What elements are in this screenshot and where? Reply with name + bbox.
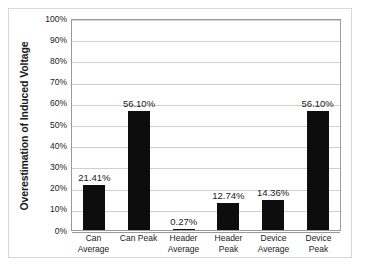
bar — [262, 200, 284, 230]
bar-slot: 56.10% — [117, 20, 162, 230]
bar-slot: 14.36% — [251, 20, 296, 230]
y-axis-tick-label: 40% — [31, 142, 67, 151]
y-axis-tick-label: 0% — [31, 227, 67, 236]
y-axis-tick-label: 100% — [31, 15, 67, 24]
x-axis-category-label: Can Peak — [116, 233, 161, 261]
bar — [128, 111, 150, 230]
bar-value-label: 12.74% — [212, 190, 244, 201]
y-axis-tick-label: 20% — [31, 184, 67, 193]
x-axis-category-label: Device Peak — [296, 233, 341, 261]
bar — [173, 229, 195, 230]
bar-value-label: 56.10% — [302, 98, 334, 109]
bar — [307, 111, 329, 230]
y-axis-tick-label: 60% — [31, 99, 67, 108]
y-axis-tick-label: 30% — [31, 163, 67, 172]
x-axis-category-label: Header Peak — [206, 233, 251, 261]
bar-series: 21.41%56.10%0.27%12.74%14.36%56.10% — [72, 20, 340, 230]
x-axis-category-labels: Can AverageCan PeakHeader AverageHeader … — [71, 233, 341, 261]
bar-value-label: 56.10% — [123, 98, 155, 109]
y-axis-tick-label: 50% — [31, 121, 67, 130]
bar-value-label: 21.41% — [78, 172, 110, 183]
bar-slot: 56.10% — [295, 20, 340, 230]
y-axis-tick-labels: 100%90%80%70%60%50%40%30%20%10%0% — [31, 19, 67, 231]
x-axis-category-label: Device Average — [251, 233, 296, 261]
bar-slot: 21.41% — [72, 20, 117, 230]
y-axis-tick-label: 70% — [31, 78, 67, 87]
y-axis-tick-label: 10% — [31, 205, 67, 214]
bar-slot: 0.27% — [161, 20, 206, 230]
x-axis-category-label: Header Average — [161, 233, 206, 261]
bar-slot: 12.74% — [206, 20, 251, 230]
plot-area: 21.41%56.10%0.27%12.74%14.36%56.10% — [71, 19, 341, 231]
bar — [83, 185, 105, 230]
bar — [217, 203, 239, 230]
y-axis-tick-label: 80% — [31, 57, 67, 66]
bar-value-label: 14.36% — [257, 187, 289, 198]
chart-frame: Overestimation of Induced Voltage 100%90… — [8, 8, 352, 258]
y-axis-tick-label: 90% — [31, 36, 67, 45]
bar-value-label: 0.27% — [170, 216, 197, 227]
x-axis-category-label: Can Average — [71, 233, 116, 261]
